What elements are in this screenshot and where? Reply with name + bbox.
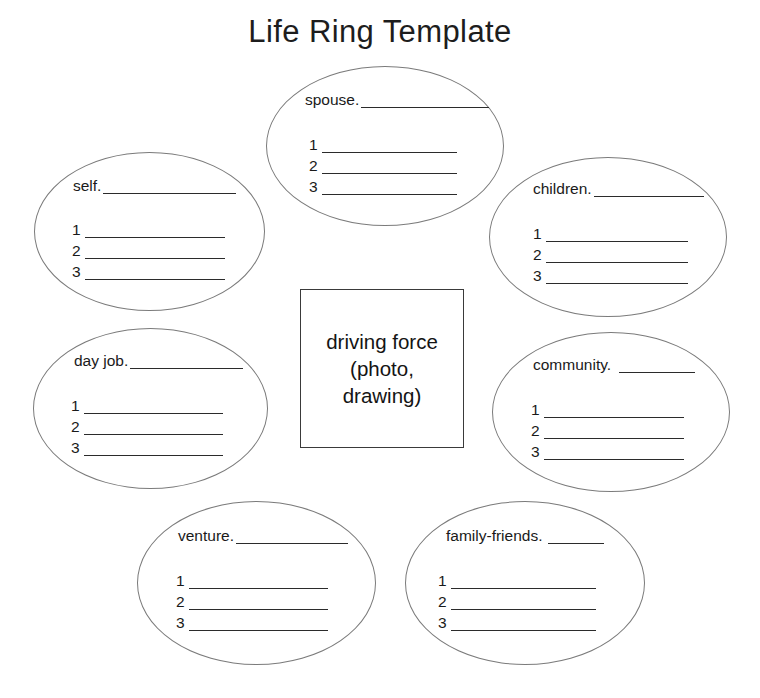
list-item-blank[interactable] [322,179,457,195]
ring-self[interactable]: self. 1 2 3 [34,152,265,311]
list-item: 3 [309,174,457,195]
driving-force-box[interactable]: driving force (photo, drawing) [300,289,464,448]
list-item-blank[interactable] [322,158,457,174]
ring-community-label-row: community. [533,356,695,373]
list-item: 2 [533,242,688,263]
page-title: Life Ring Template [0,14,760,50]
list-item-number: 3 [176,615,189,631]
ring-venture-label-blank[interactable] [236,531,348,544]
list-item-blank[interactable] [544,402,684,418]
list-item-blank[interactable] [84,419,223,435]
ring-self-label-blank[interactable] [103,181,236,194]
list-item-number: 3 [72,264,85,280]
ring-family-friends-label: family-friends. [446,527,542,544]
list-item-blank[interactable] [189,573,328,589]
ring-community-label-blank[interactable] [619,360,695,373]
ring-self-label: self. [73,177,101,194]
driving-force-text: driving force (photo, drawing) [326,328,438,409]
ring-community-content: community. 1 2 3 [493,333,729,491]
list-item-number: 1 [71,398,84,414]
list-item-number: 1 [531,402,544,418]
list-item-blank[interactable] [85,243,225,259]
list-item-number: 3 [71,440,84,456]
ring-day-job-list: 1 2 3 [71,393,223,456]
ring-day-job[interactable]: day job. 1 2 3 [33,328,268,489]
ring-spouse-content: spouse. 1 2 3 [267,67,503,225]
list-item-blank[interactable] [189,615,328,631]
ring-family-friends[interactable]: family-friends. 1 2 3 [405,501,645,665]
list-item-number: 1 [176,573,189,589]
list-item-number: 1 [438,573,451,589]
ring-community-label: community. [533,356,611,373]
list-item: 2 [176,589,328,610]
list-item-blank[interactable] [85,222,225,238]
list-item: 1 [533,221,688,242]
list-item-blank[interactable] [85,264,225,280]
list-item: 2 [438,589,596,610]
list-item-blank[interactable] [451,615,596,631]
list-item-number: 3 [533,268,546,284]
ring-spouse-label-blank[interactable] [361,95,489,108]
ring-self-label-row: self. [73,177,236,194]
list-item: 3 [531,439,684,460]
ring-spouse-label-row: spouse. [305,91,489,108]
ring-children-label-blank[interactable] [594,184,704,197]
list-item-blank[interactable] [544,423,684,439]
list-item: 2 [71,414,223,435]
list-item-blank[interactable] [322,137,457,153]
list-item: 1 [531,397,684,418]
ring-self-content: self. 1 2 3 [35,153,264,310]
list-item-number: 1 [72,222,85,238]
list-item: 3 [71,435,223,456]
list-item-number: 1 [309,137,322,153]
list-item-blank[interactable] [546,226,688,242]
list-item: 2 [531,418,684,439]
ring-venture-label-row: venture. [178,527,348,544]
ring-children-label: children. [533,180,592,197]
list-item: 1 [72,217,225,238]
ring-venture-list: 1 2 3 [176,568,328,631]
list-item-blank[interactable] [546,268,688,284]
ring-family-friends-label-blank[interactable] [548,531,604,544]
ring-venture-label: venture. [178,527,234,544]
list-item: 3 [438,610,596,631]
ring-day-job-label: day job. [74,352,128,369]
ring-family-friends-list: 1 2 3 [438,568,596,631]
list-item-number: 2 [309,158,322,174]
list-item-blank[interactable] [451,573,596,589]
list-item: 1 [309,132,457,153]
list-item: 1 [438,568,596,589]
list-item-blank[interactable] [84,440,223,456]
ring-day-job-label-row: day job. [74,352,243,369]
list-item: 2 [309,153,457,174]
list-item: 1 [71,393,223,414]
list-item-blank[interactable] [451,594,596,610]
ring-children-list: 1 2 3 [533,221,688,284]
ring-day-job-label-blank[interactable] [130,356,243,369]
list-item-blank[interactable] [189,594,328,610]
list-item-blank[interactable] [546,247,688,263]
list-item-number: 2 [533,247,546,263]
ring-self-list: 1 2 3 [72,217,225,280]
ring-family-friends-content: family-friends. 1 2 3 [406,502,644,664]
ring-spouse[interactable]: spouse. 1 2 3 [266,66,504,226]
ring-children-label-row: children. [533,180,704,197]
list-item: 3 [72,259,225,280]
list-item: 2 [72,238,225,259]
ring-community[interactable]: community. 1 2 3 [492,332,730,492]
list-item: 3 [176,610,328,631]
life-ring-template-page: Life Ring Template spouse. 1 2 3 [0,0,760,698]
list-item-number: 1 [533,226,546,242]
list-item-number: 2 [438,594,451,610]
list-item-number: 2 [176,594,189,610]
list-item-number: 3 [438,615,451,631]
list-item-blank[interactable] [84,398,223,414]
list-item: 3 [533,263,688,284]
list-item-number: 3 [531,444,544,460]
list-item-number: 3 [309,179,322,195]
list-item-blank[interactable] [544,444,684,460]
ring-children-content: children. 1 2 3 [490,158,726,316]
ring-children[interactable]: children. 1 2 3 [489,157,727,317]
ring-family-friends-label-row: family-friends. [446,527,604,544]
ring-venture[interactable]: venture. 1 2 3 [137,501,376,665]
